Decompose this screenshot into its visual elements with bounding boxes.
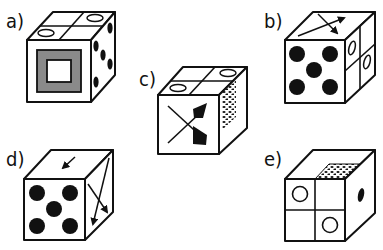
dot-icon bbox=[322, 46, 338, 62]
dot-icon bbox=[46, 201, 62, 217]
dot-icon bbox=[306, 62, 322, 78]
option-label-e: e) bbox=[264, 147, 282, 171]
dot-icon bbox=[62, 218, 78, 234]
option-label-c: c) bbox=[139, 67, 156, 91]
dot-icon bbox=[100, 50, 105, 61]
cube-d[interactable]: d) bbox=[6, 147, 113, 240]
dot-icon bbox=[289, 46, 305, 62]
dot-icon bbox=[107, 23, 112, 34]
dot-icon bbox=[62, 185, 78, 201]
option-label-a: a) bbox=[6, 9, 24, 33]
dot-icon bbox=[29, 218, 45, 234]
cube-c[interactable]: c) bbox=[139, 67, 247, 154]
dot-icon bbox=[29, 185, 45, 201]
cube-b[interactable]: b) bbox=[264, 9, 375, 103]
dot-icon bbox=[93, 41, 98, 52]
puzzle-canvas: a) b) bbox=[0, 0, 383, 250]
dot-icon bbox=[93, 77, 98, 88]
cube-e[interactable]: e) bbox=[264, 147, 375, 241]
dot-icon bbox=[107, 59, 112, 70]
cube-a[interactable]: a) bbox=[6, 9, 115, 102]
dot-icon bbox=[322, 79, 338, 95]
option-label-d: d) bbox=[6, 147, 24, 171]
option-label-b: b) bbox=[264, 9, 282, 33]
dot-icon bbox=[289, 79, 305, 95]
